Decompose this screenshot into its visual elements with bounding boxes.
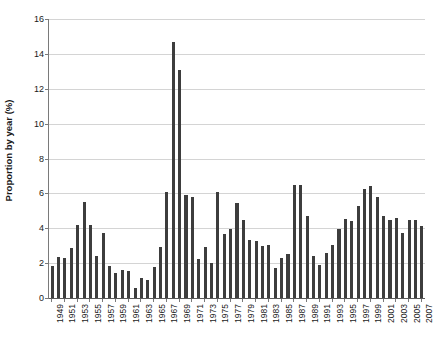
x-axis-tick-label: 1965: [157, 304, 167, 323]
x-axis-tick-label: 1951: [67, 304, 77, 323]
x-axis-tick-label: 1999: [373, 304, 383, 323]
x-axis-tick-mark: [64, 299, 65, 302]
x-axis-tick-mark: [255, 299, 256, 302]
x-axis-tick-label: 1955: [93, 304, 103, 323]
x-axis-tick-mark: [89, 299, 90, 302]
x-axis-tick-label: 1971: [195, 304, 205, 323]
x-axis-tick-label: 1985: [284, 304, 294, 323]
bar: [204, 247, 207, 298]
bar: [388, 220, 391, 298]
bar: [153, 267, 156, 298]
x-axis-tick-mark: [191, 299, 192, 302]
bar: [331, 245, 334, 298]
bar: [357, 206, 360, 298]
x-axis-tick-mark: [217, 299, 218, 302]
bar: [140, 278, 143, 298]
bar: [165, 192, 168, 298]
x-axis-tick-mark: [242, 299, 243, 302]
bar-chart: Proportion by year (%) 0246810121416 194…: [0, 0, 438, 355]
x-axis-tick-mark: [344, 299, 345, 302]
x-axis-tick-mark: [153, 299, 154, 302]
bar: [363, 189, 366, 298]
bar: [83, 202, 86, 298]
x-axis-tick-mark: [421, 299, 422, 302]
bar: [89, 225, 92, 298]
x-axis-tick-mark: [319, 299, 320, 302]
x-axis-tick-mark: [332, 299, 333, 302]
x-axis-tick-label: 1977: [233, 304, 243, 323]
bar: [235, 203, 238, 298]
x-axis-tick-mark: [306, 299, 307, 302]
y-axis-tick-label: 14: [34, 49, 44, 59]
x-axis-tick-mark: [268, 299, 269, 302]
x-axis-tick-label: 2001: [386, 304, 396, 323]
bar: [216, 192, 219, 298]
y-axis-title-text: Proportion by year (%): [4, 99, 15, 201]
bar: [280, 258, 283, 298]
bar: [191, 197, 194, 298]
x-axis-tick-label: 1959: [118, 304, 128, 323]
bar: [159, 247, 162, 298]
x-axis-tick-mark: [281, 299, 282, 302]
y-axis-tick-label: 8: [39, 154, 44, 164]
bar: [223, 234, 226, 298]
x-axis-tick-mark: [140, 299, 141, 302]
bar: [229, 229, 232, 298]
bar: [184, 195, 187, 298]
bar: [401, 233, 404, 298]
x-axis-tick-mark: [179, 299, 180, 302]
x-axis-tick-mark: [370, 299, 371, 302]
y-axis-tick-labels: 0246810121416: [18, 0, 48, 310]
bar: [70, 248, 73, 298]
bar: [108, 266, 111, 298]
bar: [395, 218, 398, 298]
x-axis-tick-mark: [230, 299, 231, 302]
y-axis-tick-label: 6: [39, 188, 44, 198]
bar: [420, 226, 423, 298]
bar: [121, 270, 124, 298]
bar: [376, 197, 379, 298]
bar: [293, 185, 296, 298]
bar: [178, 70, 181, 298]
bar: [114, 273, 117, 298]
x-axis-tick-mark: [128, 299, 129, 302]
bar: [210, 263, 213, 298]
bar: [274, 268, 277, 298]
bar: [350, 221, 353, 298]
x-axis-tick-label: 1953: [80, 304, 90, 323]
bar: [197, 259, 200, 298]
bar: [382, 216, 385, 298]
x-axis-tick-mark: [383, 299, 384, 302]
x-axis-tick-label: 2007: [424, 304, 434, 323]
bar: [63, 258, 66, 298]
bar: [408, 220, 411, 298]
x-axis-tick-label: 1983: [271, 304, 281, 323]
y-axis-tick-label: 2: [39, 258, 44, 268]
x-axis-tick-label: 1967: [169, 304, 179, 323]
x-axis-tick-mark: [204, 299, 205, 302]
bar: [242, 220, 245, 298]
bar: [369, 186, 372, 298]
bar: [248, 240, 251, 298]
bar: [127, 271, 130, 298]
x-axis-tick-mark: [408, 299, 409, 302]
x-axis-tick-mark: [77, 299, 78, 302]
bar: [51, 266, 54, 298]
bar: [146, 280, 149, 298]
x-axis-tick-label: 2003: [399, 304, 409, 323]
x-axis-tick-label: 2005: [412, 304, 422, 323]
bar: [172, 42, 175, 298]
x-axis-tick-label: 1961: [131, 304, 141, 323]
x-axis-tick-label: 1949: [55, 304, 65, 323]
x-axis-tick-mark: [51, 299, 52, 302]
bar: [337, 229, 340, 298]
x-axis-tick-mark: [166, 299, 167, 302]
x-axis-tick-label: 1963: [144, 304, 154, 323]
bar: [318, 265, 321, 298]
x-axis-tick-label: 1979: [246, 304, 256, 323]
bar: [95, 256, 98, 298]
x-axis: 1949195119531955195719591961196319651967…: [48, 299, 424, 355]
bar: [102, 233, 105, 298]
bar: [312, 256, 315, 298]
x-axis-tick-mark: [115, 299, 116, 302]
